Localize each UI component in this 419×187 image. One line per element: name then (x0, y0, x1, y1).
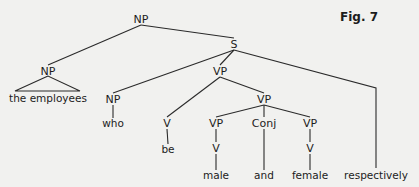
node-vp-coord: VP (257, 93, 272, 106)
node-v-male: V (212, 142, 220, 155)
node-vp-male: VP (209, 117, 224, 130)
leaf-respectively: respectively (344, 169, 408, 181)
leaf-and: and (254, 169, 274, 181)
tree-labels: NPSNPthe employeesNPwhoVPVbeVPVPVmaleCon… (9, 13, 408, 181)
edge-s-to-respectively (234, 50, 376, 168)
figure-label: Fig. 7 (340, 10, 378, 24)
edge-np-root-to-s (141, 25, 234, 38)
node-v-female: V (306, 142, 314, 155)
edge-vp-coord-to-vp-male (216, 105, 264, 117)
node-np-left: NP (41, 65, 56, 78)
syntax-tree-diagram: NPSNPthe employeesNPwhoVPVbeVPVPVmaleCon… (0, 0, 419, 187)
node-vp-main: VP (213, 65, 228, 78)
edge-np-root-to-np-left (48, 25, 141, 65)
node-np-root: NP (134, 13, 149, 26)
leaf-be: be (161, 143, 174, 155)
edge-vp-coord-to-vp-female (264, 105, 310, 117)
node-np-who: NP (106, 93, 121, 106)
edge-v-be-to-be (167, 129, 168, 144)
leaf-who: who (102, 117, 124, 129)
node-conj: Conj (252, 117, 276, 130)
node-v-be: V (163, 117, 171, 130)
edge-vp-main-to-v-be (167, 77, 220, 117)
leaf-the-employees: the employees (9, 92, 87, 104)
leaf-female: female (292, 169, 328, 181)
triangle-abbreviation-np (15, 76, 80, 91)
edge-vp-main-to-vp-coord (220, 77, 264, 93)
node-vp-female: VP (303, 117, 318, 130)
node-s: S (231, 38, 238, 51)
leaf-male: male (203, 169, 229, 181)
